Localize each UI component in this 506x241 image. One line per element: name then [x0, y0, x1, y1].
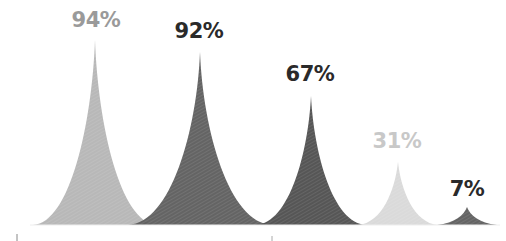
peaks-layer	[33, 40, 497, 225]
peak-texture	[358, 162, 438, 225]
value-label: 7%	[450, 177, 485, 201]
peak-texture	[437, 207, 497, 225]
peak-chart	[0, 0, 506, 241]
peak-texture	[128, 52, 272, 225]
value-label: 92%	[175, 19, 224, 43]
value-label: 94%	[72, 8, 121, 32]
peak-texture	[33, 40, 157, 225]
value-label: 31%	[373, 129, 422, 153]
peak-texture	[256, 96, 366, 225]
value-label: 67%	[286, 62, 335, 86]
